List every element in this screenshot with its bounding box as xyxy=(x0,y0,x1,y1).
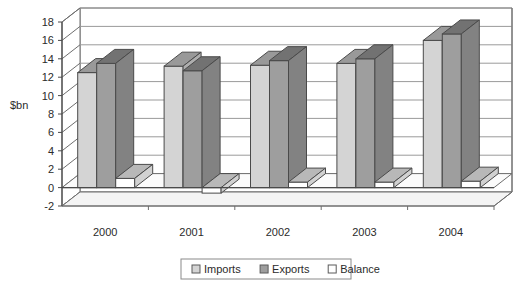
y-tick-label: 2 xyxy=(48,163,54,175)
y-tick-label: 6 xyxy=(48,126,54,138)
bar-front-face xyxy=(442,34,461,188)
bar[interactable] xyxy=(97,49,134,187)
y-tick-label: 10 xyxy=(42,90,54,102)
legend-swatch xyxy=(260,265,268,273)
bar-front-face xyxy=(461,181,480,187)
x-tick-label: 2000 xyxy=(93,226,117,238)
y-tick-label: 18 xyxy=(42,16,54,28)
y-tick-label: 16 xyxy=(42,34,54,46)
bar-right-face xyxy=(375,45,393,188)
chart-legend: ImportsExportsBalance xyxy=(181,259,380,279)
bar-front-face xyxy=(164,66,183,187)
bar-front-face xyxy=(289,182,308,188)
y-tick-label: 4 xyxy=(48,145,54,157)
y-axis-title: $bn xyxy=(10,99,28,111)
bar-front-face xyxy=(78,73,97,188)
legend-label: Balance xyxy=(340,263,380,275)
x-tick-label: 2003 xyxy=(352,226,376,238)
bar[interactable] xyxy=(442,20,479,188)
bar-right-face xyxy=(289,47,307,188)
legend-item[interactable]: Exports xyxy=(260,263,310,275)
bar-front-face xyxy=(251,65,270,187)
x-tick-label: 2004 xyxy=(439,226,463,238)
x-tick-label: 2002 xyxy=(266,226,290,238)
chart-container: -2024681012141618$bn20002001200220032004… xyxy=(0,0,519,295)
bar-right-face xyxy=(461,20,479,188)
legend-item[interactable]: Balance xyxy=(328,263,380,275)
bar[interactable] xyxy=(356,45,393,188)
legend-label: Exports xyxy=(272,263,310,275)
legend-label: Imports xyxy=(204,263,241,275)
bar-front-face xyxy=(97,63,116,187)
bar[interactable] xyxy=(183,57,220,188)
bar-front-face xyxy=(183,71,202,188)
legend-swatch xyxy=(192,265,200,273)
y-tick-label: 0 xyxy=(48,182,54,194)
y-tick-label: 8 xyxy=(48,108,54,120)
bar-front-face xyxy=(423,40,442,187)
bar-right-face xyxy=(202,57,220,188)
legend-item[interactable]: Imports xyxy=(192,263,241,275)
y-tick-label: 12 xyxy=(42,71,54,83)
grouped-bar-chart: -2024681012141618$bn20002001200220032004… xyxy=(0,0,519,295)
bar-front-face xyxy=(356,59,375,188)
y-tick-label: 14 xyxy=(42,53,54,65)
plot-floor xyxy=(62,192,512,206)
bar-front-face xyxy=(270,61,289,188)
bar-front-face xyxy=(337,63,356,187)
bar-front-face xyxy=(375,182,394,188)
bar-front-face xyxy=(116,178,135,187)
bar-front-face xyxy=(202,188,221,194)
bar[interactable] xyxy=(270,47,307,188)
legend-swatch xyxy=(328,265,336,273)
x-tick-label: 2001 xyxy=(179,226,203,238)
y-tick-label: -2 xyxy=(44,200,54,212)
